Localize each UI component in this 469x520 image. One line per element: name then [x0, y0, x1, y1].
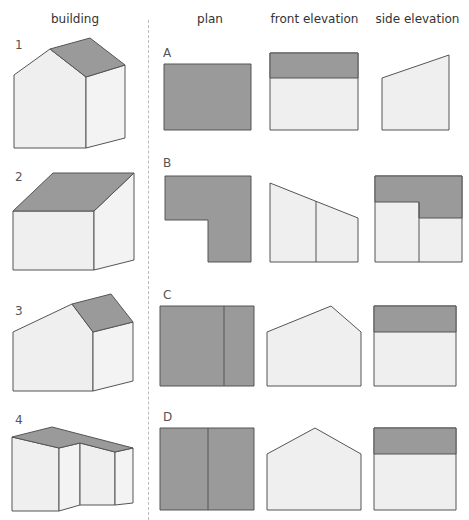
front-elevation-b — [270, 183, 358, 262]
front-elevation-a — [270, 53, 358, 130]
building-1 — [14, 38, 125, 148]
building-2 — [13, 173, 134, 270]
plan-c — [160, 306, 254, 386]
building-4 — [12, 427, 133, 511]
side-elevation-c — [374, 306, 456, 386]
side-elevation-a — [382, 55, 449, 130]
side-elevation-d — [374, 428, 456, 510]
plan-b — [165, 176, 251, 262]
plan-d — [160, 428, 254, 510]
front-elevation-c — [267, 306, 361, 386]
side-elevation-b — [375, 176, 462, 262]
building-3 — [13, 294, 133, 391]
drawing-canvas — [0, 0, 469, 520]
front-elevation-d — [267, 428, 361, 510]
plan-a — [164, 64, 251, 130]
